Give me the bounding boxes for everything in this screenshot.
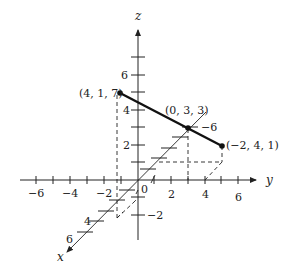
y-tick-label: −6 (28, 187, 44, 200)
z-tick-label: 4 (123, 104, 130, 117)
z-tick-label: 2 (123, 139, 130, 152)
point-0-3-3 (185, 125, 191, 131)
point-label: (−2, 4, 1) (226, 139, 279, 152)
origin-label: 0 (141, 183, 148, 196)
x-tick-label: 6 (66, 233, 73, 246)
y-tick-label: −2 (96, 187, 112, 200)
line-segment (117, 90, 225, 149)
x-axis-extent-label: −6 (201, 121, 217, 134)
y-tick-label: 6 (235, 191, 242, 204)
x-axis-label: x (57, 250, 64, 264)
x-tick-label: 4 (84, 215, 91, 228)
z-tick-label: −2 (147, 209, 163, 222)
z-axis-label: z (134, 9, 142, 23)
point-label: (4, 1, 7) (79, 87, 123, 100)
y-tick-label: −4 (62, 187, 78, 200)
x-axis: 4 6 x −6 0 (57, 112, 217, 264)
point-label: (0, 3, 3) (165, 104, 209, 117)
y-axis-label: y (265, 173, 273, 187)
y-tick-label: 2 (168, 188, 175, 201)
3d-line-diagram: −6 −4 −2 2 4 6 y 6 4 2 −2 z (0, 0, 286, 274)
z-tick-label: 6 (121, 69, 128, 82)
point-minus2-4-1 (219, 143, 225, 149)
z-axis: 6 4 2 −2 z (121, 9, 163, 240)
y-tick-label: 4 (202, 188, 209, 201)
